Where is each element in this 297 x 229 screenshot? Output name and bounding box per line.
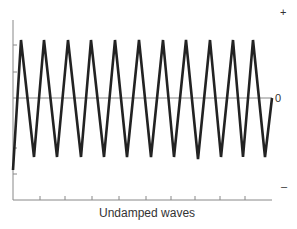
wave-line (13, 40, 272, 170)
negative-marker: – (281, 180, 287, 192)
x-ticks (40, 196, 245, 200)
positive-marker: + (280, 6, 286, 18)
x-axis-label: Undamped waves (99, 206, 195, 220)
zero-marker: 0 (275, 92, 281, 104)
chart-canvas (0, 0, 297, 229)
